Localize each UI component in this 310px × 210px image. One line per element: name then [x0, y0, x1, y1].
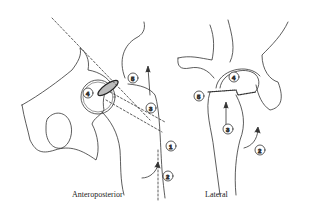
osteotomy-line: [208, 90, 256, 95]
arrow-2-lateral: [244, 130, 258, 148]
lesion: [96, 78, 120, 98]
femur-shaft: [122, 22, 145, 78]
dashed-axis: [52, 18, 150, 120]
obturator-foramen: [46, 113, 72, 148]
caption-lateral: Lateral: [205, 190, 228, 199]
caption-anteroposterior: Anteroposterior: [72, 190, 123, 199]
lateral-markers: 4 5 3 2: [194, 72, 265, 155]
lateral-view: [178, 20, 288, 195]
diagram-svg: 4 5 3 1 2 4 5 3 2: [0, 0, 310, 210]
anteroposterior-view: [22, 18, 165, 200]
pelvis-outline: [22, 48, 112, 160]
ischium: [178, 25, 214, 60]
